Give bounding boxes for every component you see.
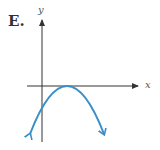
parabola-curve [30, 86, 104, 134]
graph [0, 0, 160, 150]
